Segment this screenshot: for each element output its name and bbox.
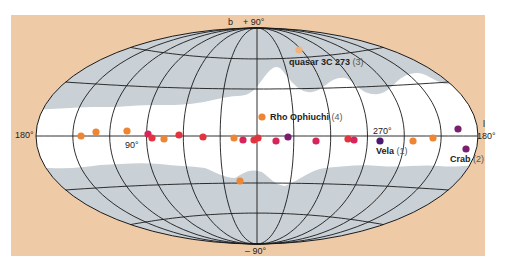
- source-marker: [429, 134, 436, 141]
- longitude-90-label: 90°: [125, 141, 139, 150]
- source-marker: [312, 137, 319, 144]
- source-marker: [462, 145, 469, 152]
- source-marker: [376, 137, 383, 144]
- south-pole-label: – 90°: [245, 247, 266, 256]
- source-marker: [175, 131, 182, 138]
- longitude-270-label: 270°: [373, 127, 392, 136]
- source-marker: [77, 132, 84, 139]
- source-marker: [409, 137, 416, 144]
- source-marker: [92, 128, 99, 135]
- crab-label: Crab (2): [450, 155, 484, 164]
- galactic-sky-map: [0, 0, 513, 280]
- source-marker: [199, 133, 206, 140]
- source-marker: [272, 137, 279, 144]
- vela-label: Vela (1): [376, 147, 408, 156]
- source-marker: [258, 113, 265, 120]
- source-marker: [454, 125, 461, 132]
- source-marker: [123, 127, 130, 134]
- source-marker: [344, 135, 351, 142]
- source-marker: [254, 134, 261, 141]
- left-180-label: 180°: [15, 131, 34, 140]
- source-marker: [350, 136, 357, 143]
- source-marker: [230, 134, 237, 141]
- source-marker: [160, 135, 167, 142]
- rho-ophiuchi-label: Rho Ophiuchi (4): [270, 113, 343, 122]
- source-marker: [236, 177, 243, 184]
- right-180-label: 180°: [477, 132, 496, 141]
- l-axis-symbol: l: [483, 120, 485, 129]
- north-pole-label: + 90°: [243, 18, 264, 27]
- source-marker: [284, 133, 291, 140]
- sky-map-figure: b + 90° – 90° l 180° 180° 90° 270° quasa…: [0, 0, 513, 280]
- b-axis-symbol: b: [228, 18, 233, 27]
- source-marker: [148, 134, 155, 141]
- quasar-label: quasar 3C 273 (3): [289, 58, 364, 67]
- source-marker: [295, 46, 302, 53]
- source-marker: [239, 136, 246, 143]
